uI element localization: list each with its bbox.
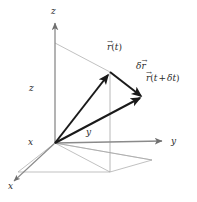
ground-plane-parallelogram xyxy=(18,143,152,172)
displacement-vector-delta-r xyxy=(110,72,141,96)
x-axis-label-origin: x xyxy=(28,138,33,147)
x-axis xyxy=(14,143,55,181)
position-vector-r-t xyxy=(55,75,108,143)
vector-diagram-canvas xyxy=(0,0,197,202)
vector-label-r-t: r→(t) xyxy=(107,43,122,52)
ground-far-edge-guide xyxy=(55,143,152,160)
x-axis-label: x xyxy=(8,182,13,191)
r-letter: r→ xyxy=(107,43,111,52)
z-component-label: z xyxy=(29,84,34,93)
r-letter: r→ xyxy=(146,74,150,83)
vector-arrow-accent: → xyxy=(107,39,111,46)
z-axis-label-top: z xyxy=(51,7,56,16)
close-paren: ) xyxy=(176,73,180,83)
z-height-guide xyxy=(55,43,110,72)
y-component-label: y xyxy=(86,128,91,137)
vector-diagram-figure: z z x x y y r→(t) δr→ r→(t+δt) xyxy=(0,0,197,202)
plus-operator: + xyxy=(157,73,167,83)
vector-label-delta-r: δr→ xyxy=(136,62,146,71)
vector-arrow-accent: → xyxy=(146,70,150,77)
vector-label-r-t-plus-delta-t: r→(t+δt) xyxy=(146,74,180,83)
close-paren: ) xyxy=(118,42,122,52)
position-vector-r-t-plus-dt xyxy=(55,98,140,143)
y-axis-label: y xyxy=(171,137,176,146)
ground-diagonal-guide xyxy=(55,143,110,172)
y-axis xyxy=(55,141,162,143)
vector-arrow-accent: → xyxy=(141,58,145,65)
